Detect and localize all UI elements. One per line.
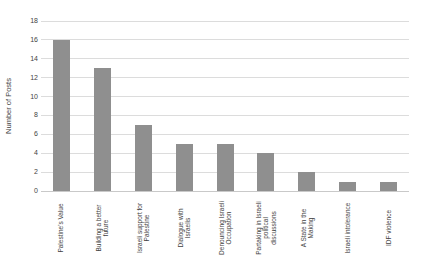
bar — [339, 182, 356, 191]
x-category-label-text: Palestine's Value — [58, 196, 65, 260]
bar — [135, 125, 152, 191]
x-category-label: Partaking in Israeli political discussio… — [245, 195, 286, 261]
y-axis-tick-labels: 024681012141618 — [0, 21, 38, 191]
x-category-label-text: Denouncing Israeli Occupation — [218, 196, 233, 260]
x-category-label: Denouncing Israeli Occupation — [205, 195, 246, 261]
bar — [380, 182, 397, 191]
x-category-label-text: A State in the Making — [300, 196, 315, 260]
x-category-label-text: Building a better future — [95, 196, 110, 260]
plot-area — [41, 21, 409, 191]
y-tick-label: 14 — [0, 54, 38, 64]
y-tick-label: 8 — [0, 110, 38, 120]
bar-chart: Number of Posts 024681012141618 Palestin… — [0, 0, 421, 274]
y-tick-label: 16 — [0, 35, 38, 45]
x-category-label: Dialogue with Israelis — [164, 195, 205, 261]
x-category-label-text: Israeli intolerance — [344, 196, 351, 260]
y-tick-label: 0 — [0, 186, 38, 196]
x-category-label: A State in the Making — [286, 195, 327, 261]
bar — [298, 172, 315, 191]
gridline — [41, 39, 409, 40]
x-category-label: Israeli intolerance — [327, 195, 368, 261]
y-tick-label: 6 — [0, 129, 38, 139]
y-tick-label: 18 — [0, 16, 38, 26]
x-category-label: Palestine's Value — [41, 195, 82, 261]
x-category-label: Israeli support for Palestine — [123, 195, 164, 261]
y-tick-label: 10 — [0, 92, 38, 102]
x-category-label-text: IDF violence — [385, 196, 392, 260]
x-category-label: IDF violence — [368, 195, 409, 261]
bar — [176, 144, 193, 191]
x-category-label-text: Israeli support for Palestine — [136, 196, 151, 260]
bar — [53, 40, 70, 191]
gridline — [41, 58, 409, 59]
y-tick-label: 4 — [0, 148, 38, 158]
x-category-label-text: Dialogue with Israelis — [177, 196, 192, 260]
y-tick-label: 2 — [0, 167, 38, 177]
y-tick-label: 12 — [0, 73, 38, 83]
bar — [217, 144, 234, 191]
bar — [257, 153, 274, 191]
bar — [94, 68, 111, 191]
x-category-label-text: Partaking in Israeli political discussio… — [255, 196, 277, 260]
gridline — [41, 21, 409, 22]
x-category-label: Building a better future — [82, 195, 123, 261]
x-axis-category-labels: Palestine's ValueBuilding a better futur… — [41, 195, 409, 261]
